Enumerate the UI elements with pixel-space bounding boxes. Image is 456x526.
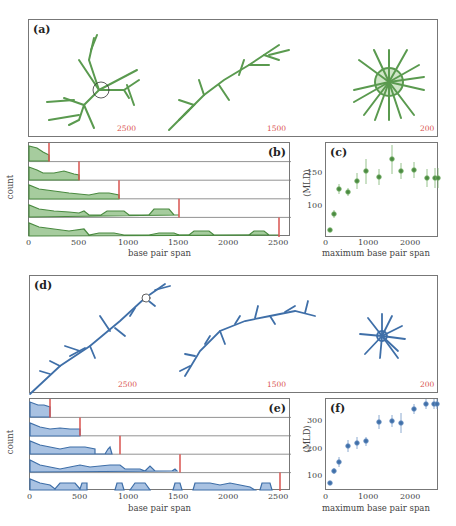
tree-drawing-2500-blue [30, 276, 439, 394]
f-xtick-2000: 2000 [400, 492, 420, 501]
f-ytick-300: 300 [307, 416, 322, 425]
scatter-f [326, 399, 439, 491]
panel-a-frame: (a) 2500 1500 200 [28, 19, 438, 137]
c-ytick-100: 100 [307, 201, 322, 210]
panel-f-xlabel: maximum base pair span [322, 503, 430, 513]
c-ytick-150: 150 [307, 168, 322, 177]
f-ytick-100: 100 [307, 471, 322, 480]
panel-b-xlabel: base pair span [128, 248, 191, 258]
b-xtick-1000: 1000 [118, 238, 138, 247]
e-xtick-500: 500 [72, 492, 87, 501]
panel-e-ylabel: count [5, 430, 15, 454]
c-xtick-0: 0 [323, 238, 328, 247]
b-xtick-0: 0 [26, 238, 31, 247]
panel-b-frame: (b) [28, 142, 290, 236]
b-xtick-2500: 2500 [268, 238, 288, 247]
panel-d-frame: (d) 2500 1500 200 [29, 275, 438, 393]
label-2500: 2500 [117, 124, 136, 133]
panel-b-label: (b) [268, 146, 286, 159]
panel-e-xlabel: base pair span [128, 503, 191, 513]
scatter-c [326, 143, 439, 238]
histogram-b [29, 143, 291, 237]
panel-e-label: (e) [269, 402, 286, 415]
b-xtick-2000: 2000 [218, 238, 238, 247]
f-xtick-1000: 1000 [358, 492, 378, 501]
histogram-e [30, 399, 291, 491]
tree-drawing-2500-green [29, 20, 439, 138]
panel-f-frame: (f) [325, 398, 438, 490]
e-xtick-2500: 2500 [268, 492, 288, 501]
e-xtick-1000: 1000 [118, 492, 138, 501]
b-xtick-500: 500 [71, 238, 86, 247]
b-xtick-1500: 1500 [168, 238, 188, 247]
panel-c-xlabel: maximum base pair span [322, 248, 430, 258]
c-xtick-1000: 1000 [358, 238, 378, 247]
label-200: 200 [420, 124, 434, 133]
c-xtick-2000: 2000 [400, 238, 420, 247]
e-xtick-2000: 2000 [218, 492, 238, 501]
panel-c-frame: (c) [325, 142, 438, 237]
label-200-d: 200 [420, 380, 434, 389]
label-2500-d: 2500 [118, 380, 137, 389]
label-1500-d: 1500 [267, 380, 286, 389]
e-xtick-1500: 1500 [168, 492, 188, 501]
label-1500: 1500 [267, 124, 286, 133]
f-xtick-0: 0 [323, 492, 328, 501]
panel-b-ylabel: count [5, 175, 15, 199]
f-ytick-200: 200 [307, 444, 322, 453]
panel-e-frame: (e) [29, 398, 290, 490]
e-xtick-0: 0 [27, 492, 32, 501]
